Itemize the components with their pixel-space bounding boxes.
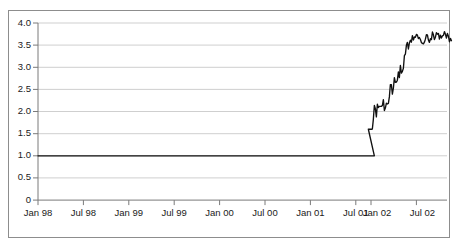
x-tick-label: Jan 99: [115, 207, 144, 218]
chart-figure: 4.0 3.5 3.0 2.5 2.0 1.5 1.0 0.5 0 Jan 98: [0, 0, 459, 246]
y-tick-label: 1.5: [18, 127, 31, 138]
data-series-line: [38, 32, 451, 156]
y-tick-label: 3.5: [18, 39, 31, 50]
x-tick-label: Jul 98: [71, 207, 96, 218]
x-tick-marks: [38, 200, 416, 205]
gridlines: [38, 23, 447, 178]
y-tick-label: 0.5: [18, 171, 31, 182]
y-tick-label: 1.0: [18, 149, 31, 160]
x-tick-label: Jan 00: [205, 207, 234, 218]
x-tick-label: Jul 00: [252, 207, 277, 218]
line-chart: 4.0 3.5 3.0 2.5 2.0 1.5 1.0 0.5 0 Jan 98: [0, 0, 459, 246]
y-tick-marks: [33, 23, 38, 200]
x-tick-label: Jul 02: [410, 207, 435, 218]
x-tick-label: Jul 99: [162, 207, 187, 218]
y-tick-labels: 4.0 3.5 3.0 2.5 2.0 1.5 1.0 0.5 0: [18, 17, 31, 205]
y-tick-label: 4.0: [18, 17, 31, 28]
x-tick-labels: Jan 98 Jul 98 Jan 99 Jul 99 Jan 00 Jul 0…: [24, 207, 435, 218]
y-tick-label: 0: [26, 194, 31, 205]
y-tick-label: 2.0: [18, 105, 31, 116]
y-tick-label: 2.5: [18, 83, 31, 94]
x-tick-label: Jan 01: [296, 207, 325, 218]
x-tick-label: Jan 02: [363, 207, 392, 218]
x-tick-label: Jan 98: [24, 207, 53, 218]
y-tick-label: 3.0: [18, 61, 31, 72]
